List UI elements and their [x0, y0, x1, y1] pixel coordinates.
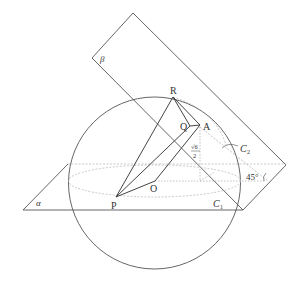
label-c2-sub: 2	[247, 149, 250, 155]
label-a: A	[203, 121, 211, 132]
label-p: P	[111, 200, 117, 211]
label-height-den: 2	[193, 152, 196, 159]
c2-leader	[222, 144, 238, 148]
label-q: Q	[180, 121, 188, 132]
label-height-num: √6	[191, 143, 199, 150]
label-beta: β	[99, 54, 105, 64]
label-c1-sub: 1	[220, 204, 223, 210]
label-o: O	[150, 183, 157, 194]
geometry-diagram: R Q A O P α β C 1 C 2 45° √6 2	[0, 0, 301, 286]
label-r: R	[170, 85, 177, 96]
solid-edges	[116, 97, 200, 197]
label-angle: 45°	[246, 172, 259, 182]
angle-arc	[263, 173, 266, 181]
label-c2: C	[240, 143, 247, 154]
label-alpha: α	[36, 198, 41, 208]
label-c1: C	[213, 198, 220, 209]
plane-alpha-front	[23, 164, 243, 210]
